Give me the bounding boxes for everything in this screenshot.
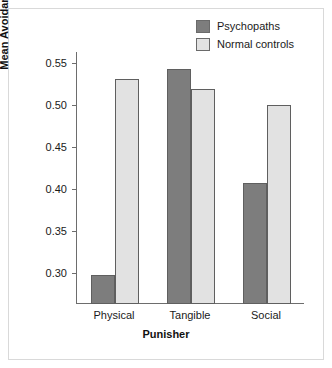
figure-root: Psychopaths Normal controls 0.550.500.45… [0,0,332,368]
x-tick-label-physical: Physical [94,309,135,321]
y-tick: 0.35 [72,231,76,232]
y-tick-label: 0.35 [46,225,67,237]
legend-item-normal-controls: Normal controls [196,36,320,53]
y-tick-label: 0.50 [46,99,67,111]
y-tick: 0.40 [72,189,76,190]
y-tick: 0.50 [72,105,76,106]
bar-physical-psychopaths [91,275,115,304]
y-tick-label: 0.40 [46,183,67,195]
y-tick-label: 0.55 [46,57,67,69]
y-tick-label: 0.30 [46,267,67,279]
legend: Psychopaths Normal controls [196,18,320,54]
x-tick-label-social: Social [251,309,281,321]
y-tick: 0.30 [72,273,76,274]
y-tick: 0.55 [72,63,76,64]
bar-social-psychopaths [243,183,267,304]
bar-tangible-normal-controls [191,89,215,304]
legend-label-psychopaths: Psychopaths [217,20,280,33]
plot-area: 0.550.500.450.400.350.30 [76,52,304,304]
y-tick-label: 0.45 [46,141,67,153]
legend-swatch-normal-controls [196,38,210,51]
bars-layer [77,52,304,303]
bar-physical-normal-controls [115,79,139,304]
legend-swatch-psychopaths [196,20,210,33]
legend-item-psychopaths: Psychopaths [196,18,320,35]
y-axis-title: Mean Avoidance Learning [0,0,10,92]
y-tick: 0.45 [72,147,76,148]
bar-social-normal-controls [267,105,291,304]
bar-tangible-psychopaths [167,69,191,304]
x-tick-label-tangible: Tangible [170,309,211,321]
legend-label-normal-controls: Normal controls [217,38,294,51]
x-axis-title: Punisher [0,328,332,340]
